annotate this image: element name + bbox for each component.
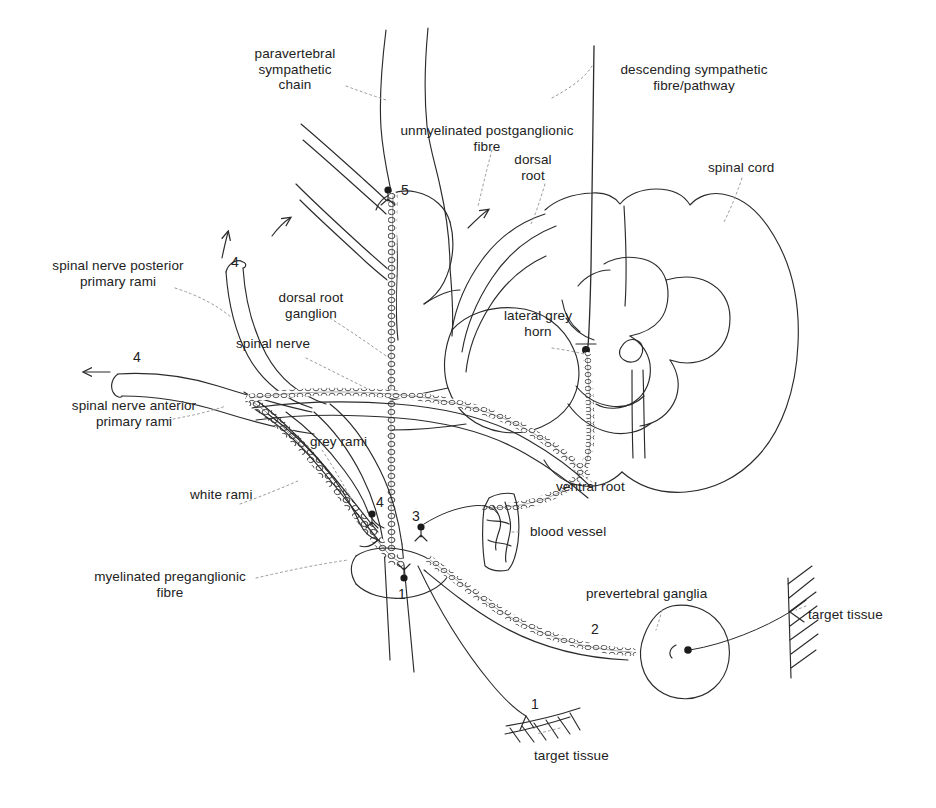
label-grey-rami: grey rami: [310, 434, 367, 450]
synapse-3: [415, 523, 427, 541]
marker-4-left: 4: [133, 349, 141, 365]
prevertebral-ganglion: [640, 605, 729, 699]
postganglionic-to-prevertebral: [424, 560, 632, 660]
white-rami-fibre: [244, 392, 400, 562]
label-ventral-root: ventral root: [556, 479, 625, 495]
chain-longitudinal-fibre: [391, 196, 393, 560]
marker-4-upper: 4: [231, 254, 239, 270]
label-prevertebral-ganglia: prevertebral ganglia: [586, 586, 707, 602]
label-blood-vessel: blood vessel: [530, 524, 606, 540]
label-dorsal-root: dorsal root: [500, 152, 566, 183]
marker-3: 3: [412, 508, 420, 524]
spinal-cord-outline: [544, 189, 798, 492]
marker-2: 2: [591, 621, 599, 637]
label-spinal-nerve-posterior-primary-rami: spinal nerve posterior primary rami: [36, 258, 200, 289]
label-dorsal-root-ganglion: dorsal root ganglion: [264, 290, 358, 321]
diagram-canvas: paravertebral sympathetic chain unmyelin…: [0, 0, 936, 808]
label-paravertebral-sympathetic-chain: paravertebral sympathetic chain: [232, 46, 358, 93]
target-tissue-bottom-symbol: [505, 708, 580, 742]
fibre-to-right-target: [690, 612, 790, 650]
label-descending-sympathetic-fibre: descending sympathetic fibre/pathway: [586, 62, 802, 93]
label-white-rami: white rami: [190, 487, 253, 503]
label-myelinated-preganglionic-fibre: myelinated preganglionic fibre: [72, 569, 268, 600]
marker-1-junction: 1: [398, 586, 406, 602]
label-unmyelinated-postganglionic-fibre: unmyelinated postganglionic fibre: [378, 123, 596, 154]
label-spinal-nerve: spinal nerve: [236, 336, 310, 352]
marker-1-bottom: 1: [531, 696, 539, 712]
marker-5: 5: [401, 182, 409, 198]
label-target-tissue-bottom: target tissue: [534, 748, 609, 764]
label-spinal-cord: spinal cord: [708, 160, 774, 176]
label-spinal-nerve-anterior-primary-rami: spinal nerve anterior primary rami: [56, 398, 212, 429]
label-target-tissue-right: target tissue: [808, 607, 883, 623]
marker-4-mid: 4: [376, 494, 384, 510]
posterior-primary-rami: [226, 261, 326, 408]
label-lateral-grey-horn: lateral grey horn: [492, 308, 584, 339]
